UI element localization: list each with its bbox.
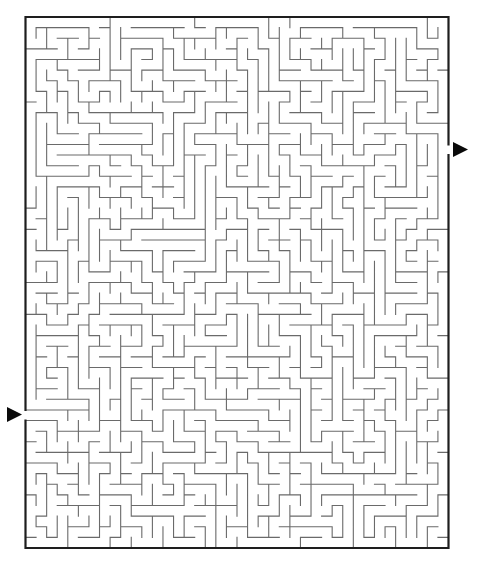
maze-walls	[26, 17, 449, 548]
start-arrow-icon	[7, 407, 22, 422]
maze-board	[0, 0, 481, 567]
finish-arrow-icon	[453, 142, 468, 157]
maze-inner-walls	[26, 17, 449, 548]
